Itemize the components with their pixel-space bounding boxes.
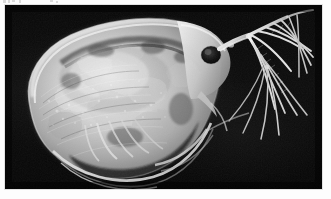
apical-spine — [207, 113, 249, 131]
scan-artifact-speck — [12, 0, 15, 2]
scan-artifact-speck — [56, 1, 58, 3]
antennal-setae-lower — [229, 43, 307, 139]
scan-artifact-speck — [3, 0, 6, 3]
daphnia-micrograph — [5, 5, 322, 189]
scan-artifact-speck — [8, 0, 10, 3]
caption-margin — [0, 191, 331, 199]
daphnia-illustration — [5, 5, 322, 189]
scan-artifact-speck — [19, 0, 21, 3]
scan-artifact-speck — [50, 0, 53, 2]
second-antenna — [219, 10, 313, 139]
antennal-setae — [251, 15, 313, 77]
page — [0, 0, 331, 199]
